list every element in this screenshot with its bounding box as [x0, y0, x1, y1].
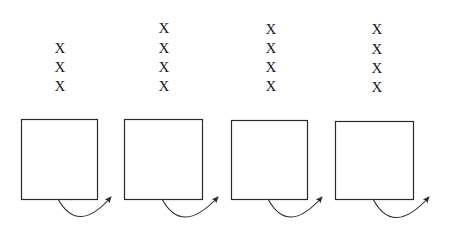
x-mark: X: [55, 60, 66, 75]
square-box: [22, 120, 98, 200]
x-mark: X: [55, 41, 66, 56]
panel-1: [22, 120, 112, 217]
square-box: [336, 122, 414, 200]
x-mark: X: [159, 60, 170, 75]
x-mark: X: [266, 41, 277, 56]
diagram-canvas: XXXXXXXXXXXXXXX: [0, 0, 450, 234]
square-box: [232, 121, 308, 200]
x-mark: X: [159, 79, 170, 94]
x-mark: X: [266, 79, 277, 94]
panel-4: [336, 122, 430, 218]
panel-3: [232, 121, 323, 218]
x-mark: X: [55, 79, 66, 94]
x-mark: X: [266, 60, 277, 75]
x-mark: X: [159, 21, 170, 36]
square-box: [125, 120, 203, 200]
x-mark: X: [372, 42, 383, 57]
x-mark: X: [372, 61, 383, 76]
x-mark: X: [372, 80, 383, 95]
panel-2: [125, 120, 219, 218]
x-mark: X: [372, 22, 383, 37]
x-mark: X: [266, 22, 277, 37]
x-mark: X: [159, 41, 170, 56]
